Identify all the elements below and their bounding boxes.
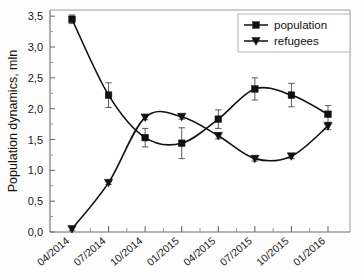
x-tick-label: 07/2015 [217, 234, 254, 268]
data-point-population [215, 116, 222, 123]
x-tick-label: 10/2014 [108, 234, 145, 268]
chart-legend: populationrefugees [238, 14, 350, 52]
y-tick-label: 3,5 [28, 10, 43, 22]
legend-label: population [274, 19, 327, 31]
y-tick-label: 1,0 [28, 164, 43, 176]
data-point-population [252, 86, 259, 93]
chart-figure: 0,00,51,01,52,02,53,03,5 04/201407/20141… [0, 0, 364, 280]
y-tick-label: 0,5 [28, 195, 43, 207]
y-tick-label: 3,0 [28, 41, 43, 53]
y-tick-label: 0,0 [28, 226, 43, 238]
data-point-population [325, 111, 332, 118]
legend-label: refugees [274, 35, 319, 47]
y-tick-label: 2,0 [28, 103, 43, 115]
y-axis-label: Population dynamics, mln [6, 50, 20, 192]
data-point-population [105, 92, 112, 99]
x-tick-label: 07/2014 [71, 234, 108, 268]
data-point-population [178, 140, 185, 147]
y-tick-label: 2,5 [28, 72, 43, 84]
population-refugees-line-chart: 0,00,51,01,52,02,53,03,5 04/201407/20141… [0, 0, 364, 280]
x-tick-label: 04/2015 [181, 234, 218, 268]
data-point-population [142, 134, 149, 141]
y-tick-label: 1,5 [28, 134, 43, 146]
x-tick-label: 04/2014 [34, 234, 71, 268]
x-axis-tick-labels: 04/201407/201410/201401/201504/201507/20… [34, 234, 327, 268]
x-tick-label: 01/2015 [144, 234, 181, 268]
data-point-population [288, 92, 295, 99]
x-tick-label: 01/2016 [290, 234, 327, 268]
data-point-population [69, 16, 76, 23]
x-tick-label: 10/2015 [254, 234, 291, 268]
legend-marker-square [253, 22, 260, 29]
